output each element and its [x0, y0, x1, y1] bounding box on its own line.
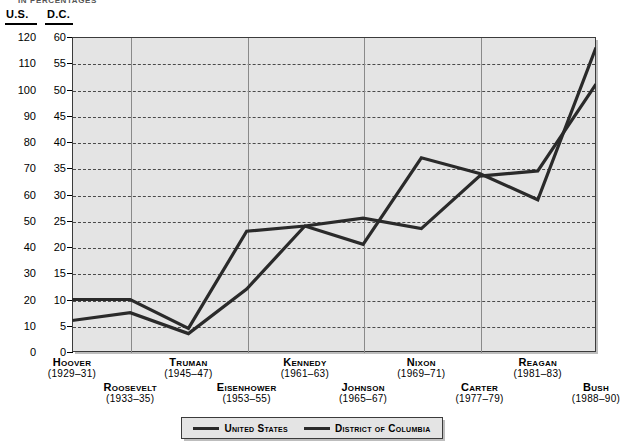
y-tick-label-us: 40: [0, 242, 36, 252]
x-label-nixon: Nixon(1969–71): [371, 356, 471, 380]
right-axis-rule: [45, 23, 73, 25]
y-tick-label-us: 100: [0, 85, 36, 95]
legend-swatch-united-states: [193, 427, 219, 430]
x-label-truman: Truman(1945–47): [138, 356, 238, 380]
y-tick-label-us: 90: [0, 111, 36, 121]
series-line-united-states: [72, 84, 596, 328]
x-label-carter: Carter(1977–79): [430, 381, 530, 405]
y-tick-label-dc: 60: [40, 32, 66, 42]
x-label-reagan: Reagan(1981–83): [488, 356, 588, 380]
legend-label-united-states: United States: [224, 423, 287, 434]
x-label-name: Roosevelt: [80, 381, 180, 393]
y-tick-label-dc: 50: [40, 85, 66, 95]
y-tick-label-us: 50: [0, 216, 36, 226]
x-label-name: Nixon: [371, 356, 471, 368]
x-label-years: (1929–31): [22, 368, 122, 380]
chart-caption: IN PERCENTAGES: [18, 0, 97, 5]
y-tick-label-dc: 40: [40, 137, 66, 147]
x-label-name: Johnson: [313, 381, 413, 393]
y-tick-label-dc: 15: [40, 268, 66, 278]
x-label-years: (1977–79): [430, 393, 530, 405]
y-tick-label-dc: 25: [40, 216, 66, 226]
x-label-years: (1945–47): [138, 368, 238, 380]
y-tick-label-dc: 35: [40, 163, 66, 173]
y-tick-label-us: 20: [0, 295, 36, 305]
x-label-johnson: Johnson(1965–67): [313, 381, 413, 405]
chart-page: IN PERCENTAGES U.S. D.C. 005101020153020…: [0, 0, 623, 448]
x-label-years: (1961–63): [255, 368, 355, 380]
x-label-eisenhower: Eisenhower(1953–55): [197, 381, 297, 405]
right-axis-title: D.C.: [47, 8, 70, 20]
y-tick-mark: [67, 352, 73, 353]
y-tick-label-dc: 20: [40, 242, 66, 252]
y-tick-label-us: 120: [0, 32, 36, 42]
series-line-district-of-columbia: [72, 48, 596, 334]
x-label-name: Truman: [138, 356, 238, 368]
x-label-name: Bush: [546, 381, 623, 393]
y-tick-label-dc: 10: [40, 295, 66, 305]
left-axis-title: U.S.: [6, 8, 29, 20]
x-label-years: (1953–55): [197, 393, 297, 405]
x-label-name: Eisenhower: [197, 381, 297, 393]
left-axis-rule: [5, 23, 37, 25]
legend-item-district-of-columbia: District of Columbia: [304, 423, 431, 434]
x-label-bush: Bush(1988–90): [546, 381, 623, 405]
legend-label-district-of-columbia: District of Columbia: [335, 423, 431, 434]
y-tick-label-us: 30: [0, 268, 36, 278]
x-label-name: Kennedy: [255, 356, 355, 368]
x-label-name: Hoover: [22, 356, 122, 368]
x-label-years: (1988–90): [546, 393, 623, 405]
y-tick-label-us: 60: [0, 190, 36, 200]
x-label-years: (1933–35): [80, 393, 180, 405]
y-tick-label-dc: 5: [40, 321, 66, 331]
x-label-hoover: Hoover(1929–31): [22, 356, 122, 380]
y-tick-label-us: 110: [0, 58, 36, 68]
x-label-roosevelt: Roosevelt(1933–35): [80, 381, 180, 405]
chart-legend: United States District of Columbia: [181, 417, 443, 439]
y-tick-label-dc: 45: [40, 111, 66, 121]
x-label-years: (1981–83): [488, 368, 588, 380]
x-label-name: Reagan: [488, 356, 588, 368]
legend-swatch-district-of-columbia: [304, 427, 330, 430]
series-lines: [72, 37, 596, 352]
legend-item-united-states: United States: [193, 423, 287, 434]
y-tick-label-us: 10: [0, 321, 36, 331]
x-label-years: (1965–67): [313, 393, 413, 405]
y-tick-label-us: 80: [0, 137, 36, 147]
y-tick-label-dc: 30: [40, 190, 66, 200]
x-label-kennedy: Kennedy(1961–63): [255, 356, 355, 380]
y-tick-label-us: 70: [0, 163, 36, 173]
x-label-years: (1969–71): [371, 368, 471, 380]
x-label-name: Carter: [430, 381, 530, 393]
y-tick-label-dc: 55: [40, 58, 66, 68]
